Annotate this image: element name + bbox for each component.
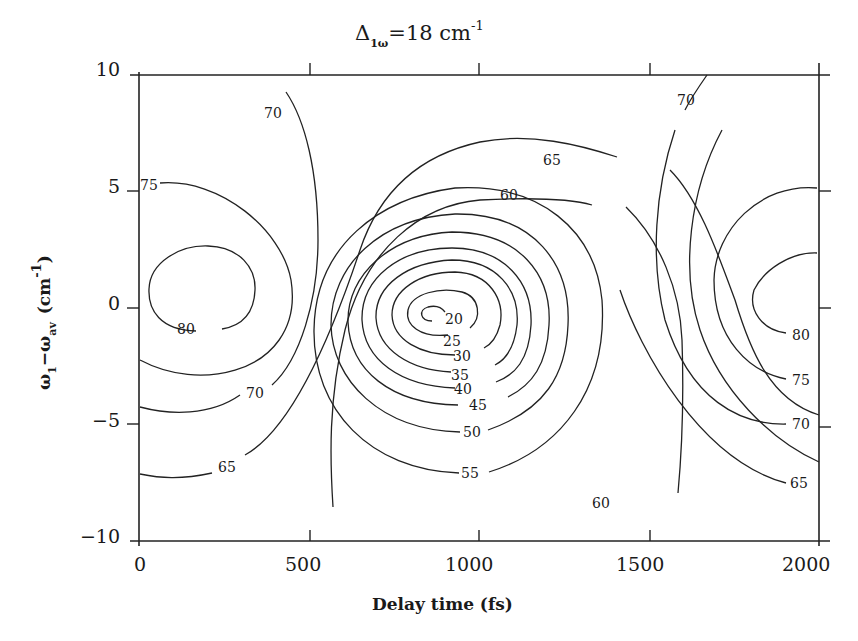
contours-center-right	[626, 130, 819, 493]
contour-label: 60	[500, 187, 518, 203]
y-axis-ticks	[127, 191, 831, 427]
y-tick-5: 5	[108, 175, 120, 197]
contour-label: 70	[792, 416, 810, 432]
contour-label: 20	[445, 311, 463, 327]
y-tick-neg5: −5	[92, 409, 120, 431]
contour-label: 65	[218, 459, 236, 475]
contour-plot: Δ1ω=18 cm-1 0 500 1000 1500 2000 10 5	[0, 0, 858, 641]
chart-title: Δ1ω=18 cm-1	[355, 18, 484, 50]
contour-label: 65	[543, 152, 561, 168]
contour-label: 60	[592, 495, 610, 511]
y-axis-label: ω1−ωav(cm-1)	[29, 255, 59, 390]
x-tick-1500: 1500	[616, 553, 664, 575]
contour-label: 75	[140, 177, 158, 193]
contour-label: 25	[443, 333, 461, 349]
x-tick-0: 0	[134, 553, 146, 575]
contour-label: 55	[461, 465, 479, 481]
x-tick-500: 500	[285, 553, 321, 575]
x-tick-1000: 1000	[445, 553, 493, 575]
contour-label: 65	[790, 475, 808, 491]
x-axis-ticks	[310, 63, 650, 541]
contour-label: 70	[264, 105, 282, 121]
y-tick-neg10: −10	[80, 525, 120, 547]
x-tick-2000: 2000	[782, 553, 830, 575]
y-tick-labels: 10 5 0 −5 −10	[80, 58, 120, 547]
contour-label: 40	[454, 381, 472, 397]
contour-label: 50	[463, 424, 481, 440]
x-axis-label: Delay time (fs)	[372, 594, 513, 614]
contour-label: 45	[469, 397, 487, 413]
contour-label: 70	[677, 92, 695, 108]
y-tick-10: 10	[96, 58, 120, 80]
contours-center	[314, 188, 603, 473]
contour-label: 70	[246, 385, 264, 401]
contour-label: 80	[792, 327, 810, 343]
x-tick-labels: 0 500 1000 1500 2000	[134, 553, 830, 575]
contour-label: 30	[453, 348, 471, 364]
contour-label: 80	[177, 321, 195, 337]
y-tick-0: 0	[108, 292, 120, 314]
contour-label: 75	[792, 372, 810, 388]
